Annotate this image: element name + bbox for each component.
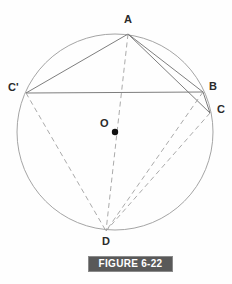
- vertex-label-o: O: [100, 118, 109, 129]
- vertex-label-d: D: [102, 236, 110, 247]
- geometry-diagram: [0, 0, 232, 284]
- center-point-dot: [112, 129, 118, 135]
- vertex-label-b: B: [209, 81, 217, 92]
- segment-a-b: [128, 34, 203, 92]
- figure-caption-bar: FIGURE 6-22: [88, 256, 173, 272]
- vertex-label-a: A: [124, 14, 132, 25]
- dashed-segment-b-d: [106, 92, 203, 231]
- vertex-label-c-prime: C': [8, 82, 19, 93]
- vertex-label-c: C: [217, 104, 225, 115]
- segment-a-c: [128, 34, 210, 113]
- segment-a-cprime: [26, 34, 128, 93]
- segment-cprime-b: [26, 92, 203, 93]
- dashed-segment-c-d: [106, 113, 210, 231]
- figure-container: A C' B C O D FIGURE 6-22: [0, 0, 232, 284]
- figure-caption-text: FIGURE 6-22: [99, 259, 163, 269]
- dashed-segment-cprime-d: [26, 93, 106, 231]
